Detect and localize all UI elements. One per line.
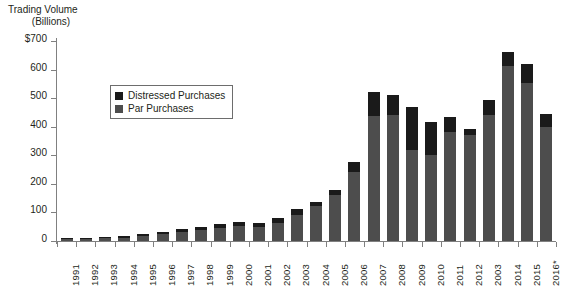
bar-segment-distressed [272, 218, 284, 223]
x-axis-tick-label: 2004 [321, 264, 331, 286]
bar-segment-distressed [253, 223, 265, 228]
x-axis-tick-mark [191, 242, 192, 247]
bar-group [368, 41, 380, 241]
plot-area [57, 41, 556, 241]
x-axis-tick-mark [460, 242, 461, 247]
bar-segment-distressed [483, 100, 495, 115]
legend-item-label: Distressed Purchases [128, 91, 225, 101]
x-axis-tick-label: 1996 [167, 264, 177, 286]
legend-swatch-icon [115, 92, 123, 100]
bar-segment-distressed [425, 122, 437, 156]
bar-segment-distressed [233, 222, 245, 227]
bar-segment-par [406, 150, 418, 241]
bar-group [99, 41, 111, 241]
y-axis-tick: 400 [0, 127, 57, 128]
bar-group [253, 41, 265, 241]
y-axis-tick-label: 200 [30, 177, 47, 187]
bar-segment-par [61, 239, 73, 241]
x-axis-tick-label: 2003 [301, 264, 311, 286]
chart-subtitle: (Billions) [8, 16, 94, 28]
bar-group [233, 41, 245, 241]
x-axis-tick-label: 1993 [109, 264, 119, 286]
bar-segment-distressed [80, 238, 92, 239]
bar-segment-par [483, 115, 495, 241]
bar-segment-par [214, 228, 226, 241]
x-axis-tick-label: 2003 [493, 264, 503, 286]
x-axis-tick-mark [441, 242, 442, 247]
bar-group [540, 41, 552, 241]
x-axis-tick-mark [326, 242, 327, 247]
y-axis-tick-label: 400 [30, 120, 47, 130]
x-axis-tick-mark [95, 242, 96, 247]
bar-segment-distressed [99, 237, 111, 238]
bar-segment-distressed [540, 114, 552, 127]
bar-group [425, 41, 437, 241]
x-axis-tick-mark [211, 242, 212, 247]
x-axis-tick-label: 2007 [378, 264, 388, 286]
x-axis-tick-mark [422, 242, 423, 247]
y-axis-tick-label: 500 [30, 91, 47, 101]
y-axis-tick: 100 [0, 212, 57, 213]
x-axis-tick-mark [479, 242, 480, 247]
legend-item: Par Purchases [115, 102, 225, 115]
x-axis-tick-label: 2015 [532, 264, 542, 286]
x-axis-tick-mark [556, 242, 557, 247]
bar-segment-par [118, 238, 130, 241]
bar-segment-par [521, 83, 533, 241]
x-axis-tick-mark [134, 242, 135, 247]
bar-group [118, 41, 130, 241]
y-axis-tick-label: 0 [41, 234, 47, 244]
legend-swatch-icon [115, 105, 123, 113]
x-axis-tick-label: 2005 [340, 264, 350, 286]
x-axis-tick-mark [76, 242, 77, 247]
chart-title-block: Trading Volume (Billions) [8, 4, 128, 28]
bar-segment-distressed [61, 238, 73, 239]
bar-segment-distressed [310, 202, 322, 207]
bar-group [137, 41, 149, 241]
bar-group [483, 41, 495, 241]
x-axis-tick-label: 1998 [205, 264, 215, 286]
bar-group [61, 41, 73, 241]
x-axis-tick-label: 1999 [225, 264, 235, 286]
x-axis-tick-mark [307, 242, 308, 247]
bar-segment-par [387, 115, 399, 241]
bar-group [291, 41, 303, 241]
x-axis-tick-mark [383, 242, 384, 247]
bar-segment-distressed [464, 129, 476, 135]
x-axis-tick-label: 2011 [455, 265, 465, 286]
x-axis-tick-label: 2000 [244, 264, 254, 286]
bar-segment-par [348, 172, 360, 241]
x-axis-tick-label: 2010 [436, 264, 446, 286]
bar-group [272, 41, 284, 241]
bar-group [521, 41, 533, 241]
bar-segment-par [233, 226, 245, 241]
x-axis-tick-mark [345, 242, 346, 247]
x-axis-tick-label: 1995 [148, 264, 158, 286]
x-axis-tick-mark [287, 242, 288, 247]
y-axis-tick: $700 [0, 41, 57, 42]
chart-title: Trading Volume [8, 4, 78, 15]
bar-segment-par [425, 155, 437, 241]
bar-segment-distressed [329, 190, 341, 196]
bar-group [348, 41, 360, 241]
bar-group [80, 41, 92, 241]
bar-group [329, 41, 341, 241]
x-axis-tick-label: 2016* [551, 260, 561, 286]
x-axis-tick-mark [172, 242, 173, 247]
y-axis-tick: 500 [0, 98, 57, 99]
bar-segment-par [176, 232, 188, 241]
bar-segment-par [99, 238, 111, 241]
bar-segment-par [80, 239, 92, 241]
bar-segment-distressed [214, 224, 226, 228]
bar-segment-distressed [348, 162, 360, 173]
x-axis-tick-mark [537, 242, 538, 247]
bar-segment-par [368, 116, 380, 241]
y-axis-tick: 300 [0, 155, 57, 156]
x-axis-tick-mark [57, 242, 58, 247]
x-axis-tick-mark [402, 242, 403, 247]
bar-segment-par [137, 236, 149, 241]
bar-group [157, 41, 169, 241]
x-axis-tick-label: 1992 [90, 264, 100, 286]
bar-segment-par [157, 234, 169, 241]
x-axis-tick-label: 2002 [282, 264, 292, 286]
